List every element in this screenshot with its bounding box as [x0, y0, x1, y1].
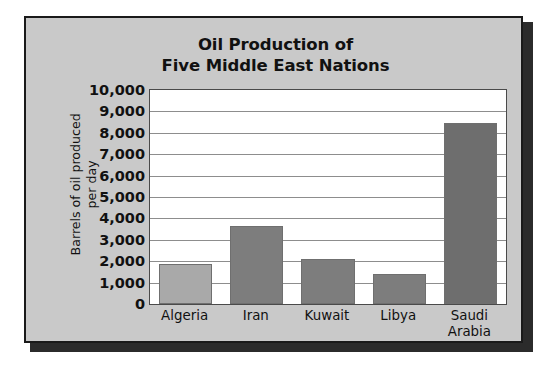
y-tick-label: 3,000 — [67, 232, 145, 248]
y-tick-label: 0 — [67, 296, 145, 312]
y-tick-label: 1,000 — [67, 275, 145, 291]
x-tick-label-iran: Iran — [220, 308, 291, 324]
bar-iran — [230, 226, 283, 304]
y-tick-label: 6,000 — [67, 168, 145, 184]
y-tick-label: 10,000 — [67, 82, 145, 98]
y-tick-label: 4,000 — [67, 210, 145, 226]
chart-title: Oil Production of Five Middle East Natio… — [26, 34, 525, 76]
bar-algeria — [159, 264, 212, 304]
x-axis-tick-labels: AlgeriaIranKuwaitLibyaSaudiArabia — [149, 308, 507, 352]
y-tick-label: 2,000 — [67, 253, 145, 269]
x-tick-label-algeria: Algeria — [149, 308, 220, 324]
bar-saudi-arabia — [444, 123, 497, 304]
x-tick-label-kuwait: Kuwait — [291, 308, 362, 324]
bar-kuwait — [301, 259, 354, 304]
y-tick-label: 7,000 — [67, 146, 145, 162]
y-tick-label: 9,000 — [67, 103, 145, 119]
y-tick-label: 5,000 — [67, 189, 145, 205]
x-tick-label-line: Kuwait — [291, 308, 362, 324]
bar-libya — [373, 274, 426, 304]
x-tick-label-line: Algeria — [149, 308, 220, 324]
plot-area: 01,0002,0003,0004,0005,0006,0007,0008,00… — [149, 89, 507, 305]
y-tick-label: 8,000 — [67, 125, 145, 141]
y-axis-tick-labels: 01,0002,0003,0004,0005,0006,0007,0008,00… — [67, 90, 145, 304]
chart-title-line-1: Oil Production of — [26, 34, 525, 55]
x-tick-label-line: Arabia — [434, 324, 505, 340]
x-tick-label-line: Saudi — [434, 308, 505, 324]
x-tick-label-line: Iran — [220, 308, 291, 324]
chart-figure: Oil Production of Five Middle East Natio… — [0, 0, 552, 374]
x-tick-label-libya: Libya — [363, 308, 434, 324]
x-tick-label-saudi-arabia: SaudiArabia — [434, 308, 505, 340]
chart-title-line-2: Five Middle East Nations — [26, 55, 525, 76]
bars-layer — [150, 90, 506, 304]
x-tick-label-line: Libya — [363, 308, 434, 324]
figure-frame: Oil Production of Five Middle East Natio… — [24, 16, 523, 343]
